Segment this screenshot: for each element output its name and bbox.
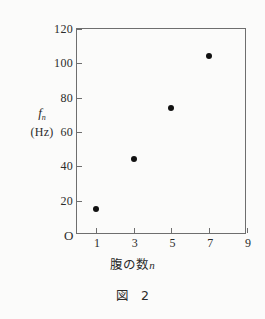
- plot-area: 20406080100120 13579: [76, 28, 246, 234]
- x-axis-symbol: n: [149, 259, 155, 271]
- y-tick-label: 120: [54, 22, 73, 37]
- x-tick-label: 3: [125, 236, 145, 251]
- y-tick: 40: [77, 166, 82, 167]
- y-tick-label: 20: [60, 194, 73, 209]
- caption-number: 2: [141, 288, 149, 303]
- x-tick-label: 9: [238, 236, 258, 251]
- y-axis-subscript: n: [42, 113, 46, 122]
- y-tick: 80: [77, 98, 82, 99]
- y-tick: 60: [77, 132, 82, 133]
- x-axis-title-text: 腹の数: [110, 257, 149, 272]
- figure-panel: fn (Hz) O 20406080100120 13579 腹の数n 図2: [0, 0, 265, 319]
- x-tick: 9: [247, 228, 248, 233]
- origin-label: O: [64, 228, 73, 243]
- data-point: [131, 156, 137, 162]
- data-point: [206, 53, 212, 59]
- y-tick-label: 40: [60, 159, 73, 174]
- x-tick: 1: [96, 228, 97, 233]
- x-axis-title: 腹の数n: [0, 257, 265, 273]
- y-tick: 20: [77, 201, 82, 202]
- data-point: [93, 206, 99, 212]
- y-tick: 100: [77, 63, 82, 64]
- caption-label: 図: [116, 288, 129, 303]
- y-tick: 120: [77, 29, 82, 30]
- x-tick-label: 1: [87, 236, 107, 251]
- y-tick-label: 80: [60, 91, 73, 106]
- x-tick: 7: [209, 228, 210, 233]
- figure-caption: 図2: [0, 288, 265, 304]
- x-tick-label: 7: [200, 236, 220, 251]
- y-tick-label: 100: [54, 56, 73, 71]
- y-tick-label: 60: [60, 125, 73, 140]
- x-tick: 3: [134, 228, 135, 233]
- x-tick: 5: [171, 228, 172, 233]
- x-tick-label: 5: [162, 236, 182, 251]
- data-point: [168, 105, 174, 111]
